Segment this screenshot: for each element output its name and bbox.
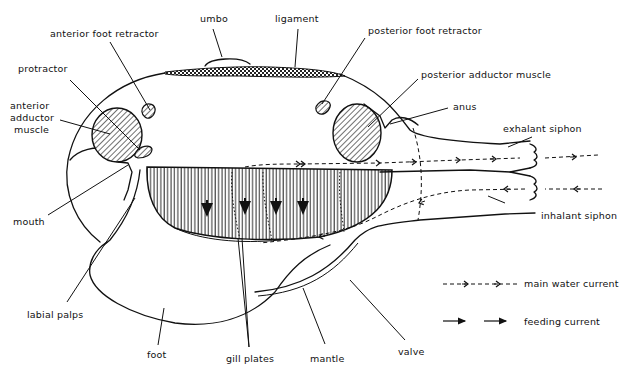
label-anterior-foot-retractor: anterior foot retractor [50,28,159,39]
label-anterior-adductor-1: anterior [10,100,49,111]
label-umbo: umbo [200,13,228,24]
label-mantle: mantle [310,353,345,364]
label-valve: valve [398,346,425,357]
legend: main water current feeding current [443,278,619,327]
diagram-canvas: umbo ligament anterior foot retractor po… [0,0,631,372]
bivalve-anatomy-diagram: umbo ligament anterior foot retractor po… [0,0,631,372]
umbo [205,59,250,66]
label-posterior-adductor-muscle: posterior adductor muscle [421,69,551,80]
label-labial-palps: labial palps [27,309,83,320]
label-anterior-adductor-3: muscle [14,124,49,135]
label-ligament: ligament [275,13,319,24]
legend-feeding-current: feeding current [443,316,600,327]
label-posterior-foot-retractor: posterior foot retractor [368,25,482,36]
foot [90,242,330,324]
anterior-foot-retractor [142,104,155,118]
posterior-adductor-muscle [333,104,381,162]
label-anus: anus [453,101,477,112]
label-mouth: mouth [13,216,45,227]
legend-label-main-water-current: main water current [524,278,619,289]
label-anterior-adductor-2: adductor [10,112,54,123]
label-gill-plates: gill plates [226,353,274,364]
ligament [165,67,345,77]
siphons [380,144,537,200]
legend-label-feeding-current: feeding current [524,316,600,327]
label-exhalant-siphon: exhalant siphon [503,123,582,134]
label-protractor: protractor [18,63,68,74]
legend-main-water-current: main water current [443,278,619,289]
label-foot: foot [147,349,167,360]
label-inhalant-siphon: inhalant siphon [541,210,617,221]
